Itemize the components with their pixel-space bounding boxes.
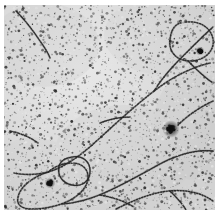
aggregate-grain [49,183,53,187]
paper-border-bottom [0,210,219,212]
aggregate-grain [167,127,170,130]
aggregate-grain [170,131,172,133]
aggregate-grain [200,51,202,53]
aggregate-grain [48,181,51,184]
aggregate-grain [169,126,171,128]
micrograph-image-field [4,5,215,210]
micrograph-canvas [4,5,215,210]
paper-border-right [215,0,219,212]
micrograph-viewport [0,0,219,212]
aggregate-grain [174,129,176,131]
